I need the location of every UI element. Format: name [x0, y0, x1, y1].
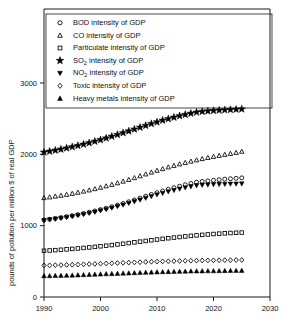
legend-label: BOD intensity of GDP — [73, 18, 146, 27]
legend-label: NO2 intensity of GDP — [73, 68, 144, 78]
y-tick-label: 0 — [33, 293, 37, 302]
x-tick-label: 1990 — [36, 304, 53, 313]
legend-label: SO2 intensity of GDP — [73, 56, 143, 66]
y-tick-label: 2000 — [20, 150, 37, 159]
y-axis-title: pounds of pollution per million $ of rea… — [7, 139, 16, 286]
x-tick-label: 2030 — [262, 304, 279, 313]
legend-entry[interactable]: Particulate intensity of GDP — [58, 43, 165, 52]
legend-entry[interactable]: Heavy metals intensity of GDP — [58, 94, 175, 103]
x-tick-label: 2000 — [92, 304, 109, 313]
x-tick-label: 2010 — [149, 304, 166, 313]
x-tick-label: 2020 — [205, 304, 222, 313]
y-tick-label: 1000 — [20, 221, 37, 230]
legend-label: Toxic intensity of GDP — [73, 81, 146, 90]
chart-container: 0100020003000 19902000201020202030 pound… — [0, 0, 294, 323]
pollution-intensity-scatter-chart: 0100020003000 19902000201020202030 pound… — [0, 0, 294, 323]
y-tick-label: 3000 — [20, 79, 37, 88]
legend-label: Heavy metals intensity of GDP — [73, 94, 175, 103]
legend-label: Particulate intensity of GDP — [73, 43, 165, 52]
legend-label: CO intensity of GDP — [73, 31, 141, 40]
